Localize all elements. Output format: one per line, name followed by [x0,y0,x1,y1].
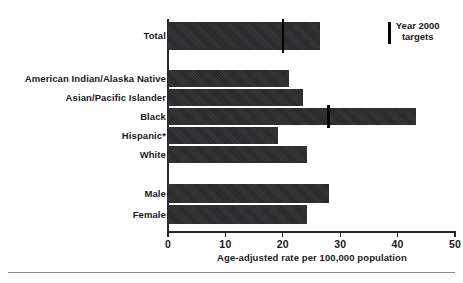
bar-female[interactable] [168,205,307,224]
bar-hispanic[interactable] [168,127,278,144]
target-marker-black [327,105,330,128]
category-label-total: Total [144,30,167,41]
category-label-black: Black [140,111,166,122]
target-tick-icon [388,22,391,44]
x-tick-20 [282,232,283,237]
category-label-american-indian-alaska-native: American Indian/Alaska Native [25,73,166,84]
x-tick-label-30: 30 [334,238,346,250]
legend-label-line1: Year 2000 [396,20,440,31]
bar-male[interactable] [168,184,329,203]
legend-label: Year 2000 targets [396,20,440,42]
category-label-white: White [140,149,166,160]
x-tick-label-40: 40 [392,238,404,250]
chart-figure: 01020304050 TotalAmerican Indian/Alaska … [0,0,463,283]
x-tick-40 [397,232,398,237]
bar-white[interactable] [168,146,307,163]
legend-label-line2: targets [396,31,440,42]
x-tick-0 [167,232,168,237]
x-tick-30 [340,232,341,237]
x-axis-line [167,231,456,233]
category-label-hispanic: Hispanic* [122,130,166,141]
x-tick-label-10: 10 [219,238,231,250]
x-tick-50 [454,232,455,237]
x-tick-label-50: 50 [449,238,461,250]
x-tick-label-0: 0 [165,238,171,250]
x-tick-10 [225,232,226,237]
bar-total[interactable] [168,22,320,50]
footer-divider [8,272,455,273]
bar-black[interactable] [168,108,416,125]
bar-asian-pacific-islander[interactable] [168,89,303,106]
x-axis-title: Age-adjusted rate per 100,000 population [168,252,456,263]
category-label-female: Female [133,209,166,220]
target-marker-total [282,19,285,53]
bar-american-indian-alaska-native[interactable] [168,70,289,87]
x-tick-label-20: 20 [277,238,289,250]
category-label-asian-pacific-islander: Asian/Pacific Islander [66,92,166,103]
category-label-male: Male [144,188,166,199]
legend: Year 2000 targets [388,20,440,44]
